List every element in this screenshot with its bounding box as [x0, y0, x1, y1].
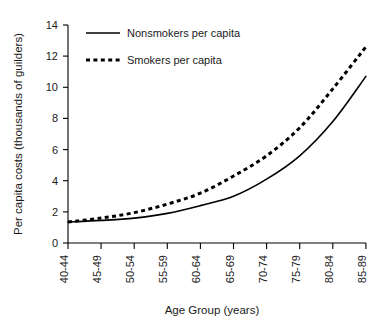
y-tick-label-4: 4	[52, 175, 58, 187]
y-axis-title: Per capita costs (thousands of guilders)	[12, 33, 24, 235]
x-axis-title: Age Group (years)	[165, 304, 260, 316]
y-axis-tick-labels: 0 2 4 6 8 10 12 14	[46, 19, 58, 249]
chart-legend: Nonsmokers per capita Smokers per capita	[86, 27, 241, 66]
y-tick-label-10: 10	[46, 81, 58, 93]
x-tick-label-45-49: 45-49	[91, 255, 103, 283]
x-tick-label-85-89: 85-89	[356, 255, 368, 283]
x-tick-label-40-44: 40-44	[58, 255, 70, 283]
x-tick-label-65-69: 65-69	[224, 255, 236, 283]
x-tick-label-80-84: 80-84	[323, 255, 335, 283]
x-tick-label-75-79: 75-79	[290, 255, 302, 283]
x-axis-tick-labels: 40-44 45-49 50-54 55-59 60-64 65-69 70-7…	[58, 255, 368, 283]
y-axis-ticks	[63, 25, 68, 243]
x-tick-label-70-74: 70-74	[257, 255, 269, 283]
y-tick-label-0: 0	[52, 237, 58, 249]
legend-label-nonsmokers: Nonsmokers per capita	[127, 27, 241, 39]
series-line-nonsmokers	[68, 76, 366, 222]
y-tick-label-8: 8	[52, 112, 58, 124]
chart-canvas: 0 2 4 6 8 10 12 14 Per capita costs (tho…	[0, 0, 386, 330]
x-tick-label-55-59: 55-59	[157, 255, 169, 283]
x-axis-ticks	[68, 243, 366, 249]
y-tick-label-12: 12	[46, 50, 58, 62]
x-tick-label-60-64: 60-64	[190, 255, 202, 283]
legend-label-smokers: Smokers per capita	[127, 54, 223, 66]
y-tick-label-14: 14	[46, 19, 58, 31]
y-tick-label-2: 2	[52, 206, 58, 218]
y-tick-label-6: 6	[52, 144, 58, 156]
chart-figure: 0 2 4 6 8 10 12 14 Per capita costs (tho…	[0, 0, 386, 330]
x-tick-label-50-54: 50-54	[124, 255, 136, 283]
